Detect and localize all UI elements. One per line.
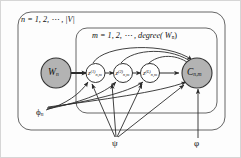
- inner-plate-label-close: ): [174, 31, 177, 40]
- node-w-label-sub: n: [56, 71, 59, 77]
- param-phi-n-label: ϕn: [36, 108, 43, 117]
- node-c-label: Cn,m: [187, 68, 202, 78]
- param-varphi-label: φ: [194, 139, 199, 148]
- node-w-label-main: W: [48, 67, 56, 77]
- param-phi-n-sub: n: [41, 111, 44, 117]
- outer-plate-label: n = 1, 2, ⋯ , |V|: [21, 16, 75, 24]
- node-zl-label: z(L)n,m: [143, 70, 157, 77]
- node-c-label-sub: n,m: [193, 71, 201, 77]
- inner-plate-label-text: m = 1, 2, ⋯ , degree( W: [92, 31, 172, 40]
- node-z1-label: z(1)n,m: [88, 70, 102, 77]
- param-psi-label: ψ: [112, 139, 118, 148]
- node-w-label: Wn: [48, 68, 59, 78]
- node-zl-label-sub: n,m: [151, 72, 157, 77]
- graphical-model-figure: n = 1, 2, ⋯ , |V| m = 1, 2, ⋯ , degree( …: [0, 0, 241, 158]
- node-z2-label-sub: n,m: [123, 72, 129, 77]
- inner-plate-label: m = 1, 2, ⋯ , degree( Wn): [92, 32, 177, 40]
- node-z1-label-sub: n,m: [96, 72, 102, 77]
- node-z2-label: z(2)n,m: [116, 70, 130, 77]
